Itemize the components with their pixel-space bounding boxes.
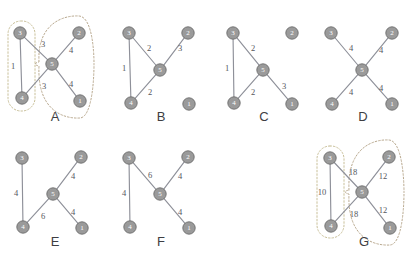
- edge-weight-3-4: 10: [318, 187, 327, 197]
- node-label-1: 1: [390, 100, 394, 108]
- panel-letter-b: B: [157, 109, 166, 124]
- edge-3-4: [129, 164, 130, 221]
- edge-weight-4-5: 2: [251, 87, 255, 97]
- edge-4-5: [27, 199, 49, 223]
- edge-weight-3-5: 4: [349, 43, 354, 53]
- edge-weight-5-1: 4: [379, 83, 384, 93]
- graph-panel-c: 122332541C: [225, 27, 298, 124]
- node-label-2: 2: [390, 29, 394, 37]
- edge-3-4: [233, 39, 234, 97]
- edge-3-4: [129, 39, 131, 97]
- edge-weight-5-1: 4: [71, 207, 76, 217]
- edge-weight-3-5: 2: [147, 43, 151, 53]
- edge-weight-5-1: 3: [282, 81, 286, 91]
- node-label-2: 2: [186, 153, 190, 161]
- node-label-5: 5: [50, 60, 54, 68]
- edge-weight-3-5: 18: [349, 167, 358, 177]
- node-label-1: 1: [388, 224, 392, 232]
- node-label-4: 4: [129, 99, 133, 107]
- edge-weight-3-5: 3: [41, 39, 45, 49]
- graph-panel-e: 464432541E: [14, 151, 88, 249]
- edge-weight-5-1: 4: [69, 79, 74, 89]
- node-label-4: 4: [330, 100, 334, 108]
- edge-weight-5-2: 4: [71, 171, 76, 181]
- node-label-3: 3: [328, 154, 332, 162]
- edge-3-4: [20, 39, 22, 92]
- node-label-5: 5: [158, 66, 162, 74]
- node-label-3: 3: [329, 29, 333, 37]
- edge-4-5: [135, 75, 156, 99]
- graph-panel-d: 444432541D: [325, 27, 398, 124]
- panel-letter-g: G: [359, 234, 369, 249]
- node-label-3: 3: [127, 154, 131, 162]
- node-label-1: 1: [187, 100, 191, 108]
- panel-letter-d: D: [358, 109, 367, 124]
- node-label-2: 2: [79, 153, 83, 161]
- node-label-4: 4: [232, 99, 236, 107]
- node-label-3: 3: [127, 29, 131, 37]
- edge-3-5: [237, 38, 259, 65]
- edge-3-4: [22, 164, 23, 221]
- node-label-1: 1: [187, 224, 191, 232]
- node-label-3: 3: [18, 29, 22, 37]
- graph-panel-a: 1334432541A: [8, 16, 94, 124]
- edge-3-4: [330, 164, 331, 220]
- node-label-2: 2: [77, 29, 81, 37]
- panel-letter-f: F: [157, 234, 165, 249]
- graph-panel-g: 101818121232541G: [317, 140, 404, 249]
- graph-panel-b: 122332541B: [122, 27, 195, 124]
- edge-weight-4-5: 3: [42, 81, 46, 91]
- node-label-2: 2: [387, 153, 391, 161]
- edge-weight-3-4: 1: [225, 63, 229, 73]
- node-label-4: 4: [329, 222, 333, 230]
- node-label-4: 4: [21, 223, 25, 231]
- edge-weight-4-5: 2: [148, 87, 152, 97]
- edge-3-5: [335, 38, 358, 65]
- panel-letter-a: A: [51, 109, 60, 124]
- edge-weight-5-2: 4: [178, 171, 183, 181]
- edge-5-1: [56, 69, 77, 96]
- edge-weight-4-5: 18: [350, 209, 359, 219]
- edge-weight-3-4: 1: [11, 61, 15, 71]
- node-label-2: 2: [290, 29, 294, 37]
- edge-weight-5-1: 4: [178, 207, 183, 217]
- edge-4-5: [238, 75, 259, 99]
- edge-weight-5-2: 3: [178, 43, 182, 53]
- edge-weight-5-1: 12: [379, 205, 388, 215]
- node-label-1: 1: [290, 100, 294, 108]
- edge-3-5: [133, 163, 156, 190]
- node-label-5: 5: [360, 66, 364, 74]
- edge-4-5: [336, 75, 358, 100]
- edge-5-1: [366, 75, 388, 100]
- node-label-5: 5: [360, 188, 364, 196]
- edge-weight-3-4: 4: [14, 188, 19, 198]
- node-label-5: 5: [51, 190, 55, 198]
- node-label-5: 5: [261, 66, 265, 74]
- edge-3-5: [133, 38, 156, 65]
- edge-weight-4-5: 6: [41, 211, 45, 221]
- edge-weight-5-2: 4: [69, 45, 74, 55]
- node-label-1: 1: [80, 224, 84, 232]
- graph-panels-figure: 1334432541A122332541B122332541C444432541…: [0, 0, 419, 255]
- node-label-3: 3: [20, 154, 24, 162]
- edge-5-2: [366, 38, 388, 65]
- node-label-5: 5: [158, 190, 162, 198]
- edge-weight-3-5: 6: [148, 170, 152, 180]
- node-label-1: 1: [78, 97, 82, 105]
- panel-letter-c: C: [259, 109, 268, 124]
- node-label-4: 4: [20, 94, 24, 102]
- panel-letter-e: E: [51, 234, 60, 249]
- edge-weight-3-4: 4: [122, 188, 127, 198]
- edge-weight-3-4: 1: [122, 63, 126, 73]
- edge-weight-5-2: 12: [379, 171, 388, 181]
- figure-canvas: 1334432541A122332541B122332541C444432541…: [0, 0, 419, 255]
- edge-weight-5-2: 4: [379, 45, 384, 55]
- node-label-4: 4: [128, 223, 132, 231]
- edge-weight-3-5: 2: [251, 43, 255, 53]
- node-label-2: 2: [186, 29, 190, 37]
- edge-weight-4-5: 4: [349, 87, 354, 97]
- graph-panel-f: 464432541F: [122, 151, 195, 249]
- node-label-3: 3: [231, 29, 235, 37]
